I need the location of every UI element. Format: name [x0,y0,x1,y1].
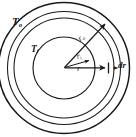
arrow-outer-radius [65,24,106,68]
radius-arrows-group [65,24,106,68]
label-inner-temperature: Ti [31,45,38,55]
label-generic-radius: r [77,64,81,73]
label-thickness-element: dr [118,61,126,70]
dr-span-group [109,63,118,74]
figure-canvas: To Ti ro ri r dr [0,0,136,137]
label-outer-temperature: To [12,16,22,29]
